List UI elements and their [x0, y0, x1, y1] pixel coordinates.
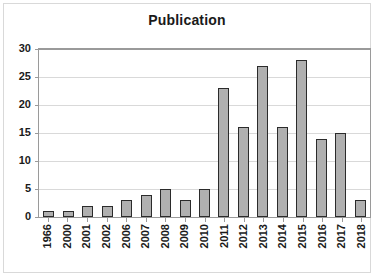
x-tick-label: 2016	[317, 224, 328, 248]
bar-slot	[312, 49, 331, 217]
x-tick-label: 2017	[336, 224, 347, 248]
bar-slot	[292, 49, 311, 217]
x-tick-label: 2013	[258, 224, 269, 248]
x-label-slot: 2001	[77, 218, 97, 274]
x-tick-mark	[303, 218, 304, 222]
chart-title: Publication	[4, 12, 370, 28]
x-tick-label: 2010	[199, 224, 210, 248]
x-tick-mark	[48, 218, 49, 222]
x-tick-label: 2011	[219, 224, 230, 248]
x-label-slot: 2011	[214, 218, 234, 274]
x-label-slot: 2006	[116, 218, 136, 274]
bar[interactable]	[355, 200, 366, 217]
x-tick-mark	[67, 218, 68, 222]
bar-slot	[351, 49, 370, 217]
x-label-slot: 1966	[38, 218, 58, 274]
bar-slot	[156, 49, 175, 217]
x-label-slot: 2016	[312, 218, 332, 274]
bar[interactable]	[296, 60, 307, 217]
x-tick-label: 2007	[140, 224, 151, 248]
bar[interactable]	[316, 139, 327, 217]
x-tick-mark	[87, 218, 88, 222]
x-tick-mark	[342, 218, 343, 222]
x-tick-mark	[283, 218, 284, 222]
x-tick-label: 2015	[297, 224, 308, 248]
bar[interactable]	[238, 127, 249, 217]
bar[interactable]	[121, 200, 132, 217]
x-tick-label: 1966	[42, 224, 53, 248]
bar[interactable]	[141, 195, 152, 217]
bar[interactable]	[160, 189, 171, 217]
x-tick-label: 2009	[179, 224, 190, 248]
x-tick-mark	[361, 218, 362, 222]
bar-slot	[78, 49, 97, 217]
y-axis: 051015202530	[4, 4, 35, 272]
x-label-slot: 2012	[234, 218, 254, 274]
x-tick-mark	[146, 218, 147, 222]
x-tick-mark	[126, 218, 127, 222]
x-tick-label: 2001	[81, 224, 92, 248]
x-tick-mark	[263, 218, 264, 222]
bar-slot	[136, 49, 155, 217]
x-tick-label: 2012	[238, 224, 249, 248]
bar-series	[39, 49, 370, 217]
x-tick-mark	[322, 218, 323, 222]
x-tick-mark	[107, 218, 108, 222]
bar[interactable]	[257, 66, 268, 217]
x-tick-mark	[244, 218, 245, 222]
bar-slot	[97, 49, 116, 217]
x-label-slot: 2002	[97, 218, 117, 274]
x-tick-mark	[165, 218, 166, 222]
bar[interactable]	[199, 189, 210, 217]
bar[interactable]	[63, 211, 74, 217]
x-tick-label: 2006	[121, 224, 132, 248]
bar-slot	[58, 49, 77, 217]
x-tick-label: 2008	[160, 224, 171, 248]
plot-area	[38, 48, 371, 218]
bar[interactable]	[82, 206, 93, 217]
bar-slot	[331, 49, 350, 217]
x-label-slot: 2007	[136, 218, 156, 274]
bar[interactable]	[277, 127, 288, 217]
x-tick-label: 2002	[101, 224, 112, 248]
bar-slot	[253, 49, 272, 217]
y-tick-label: 20	[19, 99, 31, 110]
bar-slot	[117, 49, 136, 217]
bar-slot	[234, 49, 253, 217]
x-label-slot: 2018	[352, 218, 372, 274]
y-tick-label: 30	[19, 43, 31, 54]
bar[interactable]	[335, 133, 346, 217]
x-tick-mark	[205, 218, 206, 222]
bar-slot	[214, 49, 233, 217]
x-label-slot: 2013	[254, 218, 274, 274]
bar[interactable]	[102, 206, 113, 217]
bar-slot	[39, 49, 58, 217]
y-tick-label: 0	[25, 211, 31, 222]
x-tick-label: 2000	[62, 224, 73, 248]
x-label-slot: 2008	[156, 218, 176, 274]
x-label-slot: 2015	[293, 218, 313, 274]
bar[interactable]	[180, 200, 191, 217]
x-tick-label: 2014	[277, 224, 288, 248]
bar[interactable]	[43, 211, 54, 217]
bar-slot	[195, 49, 214, 217]
bar-slot	[175, 49, 194, 217]
y-tick-label: 25	[19, 71, 31, 82]
bar-slot	[273, 49, 292, 217]
x-tick-mark	[185, 218, 186, 222]
x-label-slot: 2009	[175, 218, 195, 274]
x-tick-label: 2018	[356, 224, 367, 248]
bar[interactable]	[218, 88, 229, 217]
x-axis: 1966200020012002200620072008200920102011…	[38, 218, 371, 274]
x-label-slot: 2010	[195, 218, 215, 274]
y-tick-label: 15	[19, 127, 31, 138]
y-tick-label: 10	[19, 155, 31, 166]
x-label-slot: 2017	[332, 218, 352, 274]
x-label-slot: 2000	[58, 218, 78, 274]
y-tick-label: 5	[25, 183, 31, 194]
chart-frame: Publication 051015202530 196620002001200…	[3, 3, 371, 273]
x-label-slot: 2014	[273, 218, 293, 274]
x-tick-mark	[224, 218, 225, 222]
